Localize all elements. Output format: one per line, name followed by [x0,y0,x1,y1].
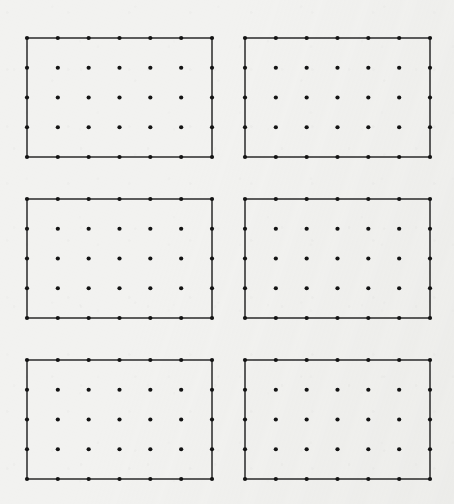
lattice-dot-perimeter [148,358,152,362]
lattice-dot-interior [335,286,339,290]
lattice-dot-interior [117,256,121,260]
lattice-dot-perimeter [25,316,29,320]
panel-top-left [25,36,214,159]
lattice-dot-interior [148,125,152,129]
lattice-dot-perimeter [87,358,91,362]
lattice-dot-perimeter [179,155,183,159]
lattice-dot-interior [56,66,60,70]
lattice-dot-perimeter [25,227,29,231]
lattice-dot-interior [87,125,91,129]
lattice-dot-perimeter [243,155,247,159]
lattice-dot-perimeter [25,388,29,392]
lattice-dot-perimeter [25,197,29,201]
lattice-dot-perimeter [366,358,370,362]
lattice-dot-perimeter [243,286,247,290]
lattice-dot-perimeter [210,125,214,129]
lattice-dot-perimeter [210,197,214,201]
lattice-dot-interior [117,388,121,392]
lattice-dot-perimeter [243,36,247,40]
lattice-dot-perimeter [305,477,309,481]
lattice-dot-interior [117,417,121,421]
lattice-dot-perimeter [25,286,29,290]
lattice-dot-interior [335,66,339,70]
lattice-dot-perimeter [56,358,60,362]
lattice-dot-interior [305,95,309,99]
lattice-dot-perimeter [428,95,432,99]
lattice-dot-perimeter [428,417,432,421]
lattice-dot-interior [179,227,183,231]
lattice-dot-perimeter [335,316,339,320]
lattice-dot-perimeter [148,316,152,320]
lattice-dot-perimeter [243,227,247,231]
lattice-dot-perimeter [25,447,29,451]
lattice-dot-perimeter [274,197,278,201]
lattice-dot-perimeter [428,197,432,201]
lattice-dot-perimeter [87,197,91,201]
lattice-dot-perimeter [87,477,91,481]
lattice-dot-interior [117,95,121,99]
lattice-dot-interior [56,256,60,260]
lattice-dot-perimeter [179,197,183,201]
lattice-dot-perimeter [428,227,432,231]
lattice-dot-interior [56,417,60,421]
lattice-dot-perimeter [117,155,121,159]
lattice-dot-perimeter [335,197,339,201]
lattice-dot-perimeter [366,316,370,320]
lattice-dot-perimeter [210,95,214,99]
lattice-dot-interior [397,417,401,421]
lattice-dot-perimeter [25,256,29,260]
lattice-dot-perimeter [243,447,247,451]
lattice-dot-interior [335,125,339,129]
lattice-dot-perimeter [274,316,278,320]
lattice-dot-interior [397,447,401,451]
lattice-dot-interior [397,388,401,392]
lattice-dot-perimeter [243,95,247,99]
lattice-dot-interior [397,66,401,70]
lattice-dot-interior [179,286,183,290]
panel-bottom-right [243,358,432,481]
lattice-dot-interior [397,95,401,99]
lattice-dot-perimeter [87,155,91,159]
lattice-dot-perimeter [305,36,309,40]
lattice-dot-interior [148,256,152,260]
lattice-dot-interior [87,447,91,451]
lattice-dot-perimeter [25,125,29,129]
lattice-dot-interior [335,95,339,99]
lattice-dot-interior [148,95,152,99]
lattice-dot-interior [87,227,91,231]
lattice-dot-perimeter [117,316,121,320]
lattice-dot-interior [335,417,339,421]
lattice-dot-perimeter [210,227,214,231]
lattice-dot-perimeter [397,36,401,40]
lattice-dot-perimeter [397,155,401,159]
lattice-dot-perimeter [25,36,29,40]
lattice-dot-perimeter [56,155,60,159]
lattice-dot-perimeter [335,36,339,40]
lattice-dot-perimeter [243,388,247,392]
lattice-dot-perimeter [243,316,247,320]
panel-bottom-left [25,358,214,481]
lattice-dot-perimeter [210,286,214,290]
lattice-dot-perimeter [210,447,214,451]
lattice-dot-interior [179,66,183,70]
lattice-dot-interior [366,227,370,231]
lattice-dot-interior [148,66,152,70]
lattice-dot-perimeter [25,417,29,421]
lattice-dot-perimeter [25,95,29,99]
lattice-dot-interior [117,125,121,129]
lattice-dot-interior [117,286,121,290]
lattice-dot-interior [87,256,91,260]
lattice-dot-perimeter [56,36,60,40]
lattice-dot-perimeter [305,316,309,320]
panel-top-right [243,36,432,159]
lattice-dot-perimeter [56,197,60,201]
lattice-dot-perimeter [210,417,214,421]
lattice-dot-perimeter [305,197,309,201]
panel-middle-right [243,197,432,320]
lattice-dot-perimeter [210,316,214,320]
lattice-dot-interior [397,286,401,290]
lattice-dot-perimeter [117,358,121,362]
lattice-dot-interior [397,256,401,260]
lattice-dot-perimeter [428,286,432,290]
lattice-dot-interior [366,66,370,70]
